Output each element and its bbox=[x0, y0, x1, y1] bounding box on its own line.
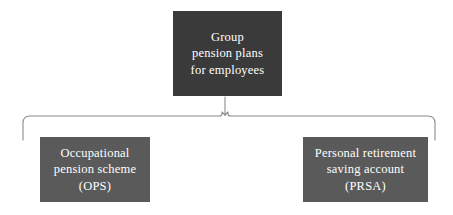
node-ops-line-3: (OPS) bbox=[79, 178, 111, 194]
node-ops-line-1: Occupational bbox=[60, 145, 129, 161]
pension-plans-diagram: Group pension plans for employees Occupa… bbox=[0, 0, 453, 215]
node-prsa-line-1: Personal retirement bbox=[315, 145, 416, 161]
connector-left-branch bbox=[23, 112, 225, 140]
node-occupational-pension-scheme[interactable]: Occupational pension scheme (OPS) bbox=[40, 137, 150, 202]
node-personal-retirement-saving-account[interactable]: Personal retirement saving account (PRSA… bbox=[303, 137, 428, 202]
node-ops-line-2: pension scheme bbox=[54, 161, 136, 177]
node-prsa-line-3: (PRSA) bbox=[345, 178, 386, 194]
connector-right-branch bbox=[225, 112, 435, 140]
node-root-line-1: Group bbox=[211, 29, 244, 45]
node-root-line-2: pension plans bbox=[192, 45, 263, 61]
node-group-pension-plans[interactable]: Group pension plans for employees bbox=[173, 11, 282, 96]
node-root-line-3: for employees bbox=[191, 62, 265, 78]
node-prsa-line-2: saving account bbox=[327, 161, 404, 177]
